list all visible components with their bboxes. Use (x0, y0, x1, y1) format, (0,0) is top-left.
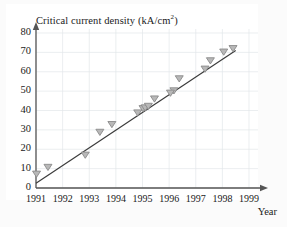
x-tick-label: 1994 (101, 193, 131, 204)
x-tick-label: 1991 (21, 193, 51, 204)
x-tick-label: 1995 (128, 193, 158, 204)
y-tick-label: 70 (11, 45, 31, 56)
x-tick-label: 1993 (74, 193, 104, 204)
x-tick-label: 1996 (154, 193, 184, 204)
y-tick-label: 0 (11, 181, 31, 192)
data-point-marker (81, 152, 89, 158)
x-tick-label: 1998 (207, 193, 237, 204)
figure: Critical current density (kA/cm2) 010203… (0, 0, 287, 227)
y-tick-label: 30 (11, 123, 31, 134)
data-point-marker (150, 96, 158, 102)
y-tick-label: 10 (11, 162, 31, 173)
x-tick-label: 1992 (48, 193, 78, 204)
data-point-marker (44, 164, 52, 170)
y-tick-label: 80 (11, 26, 31, 37)
x-tick-label: 1997 (181, 193, 211, 204)
data-point-marker (108, 122, 116, 128)
y-tick-label: 40 (11, 104, 31, 115)
data-point-marker (33, 171, 41, 177)
data-points (33, 46, 237, 178)
y-tick-label: 20 (11, 142, 31, 153)
data-point-marker (134, 110, 142, 116)
y-tick-label: 60 (11, 65, 31, 76)
y-tick-label: 50 (11, 84, 31, 95)
data-point-marker (175, 76, 183, 82)
data-point-marker (96, 129, 104, 135)
data-point-marker (206, 58, 214, 64)
x-axis-label: Year (258, 206, 277, 217)
x-tick-label: 1999 (234, 193, 264, 204)
